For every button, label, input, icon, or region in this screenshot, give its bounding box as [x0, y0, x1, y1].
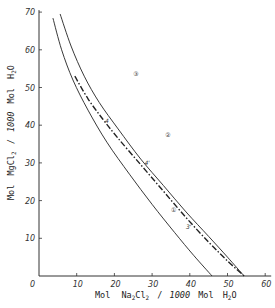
y-tick-label: 10 — [25, 234, 35, 243]
x-tick-label: 20 — [110, 280, 120, 289]
x-axis-label: Mol Na2Cl2 / 1000 Mol H2O — [95, 290, 237, 302]
annotations-layer: ①②③44'3' — [105, 70, 192, 230]
curve-annotation: 3' — [186, 223, 192, 230]
curve-annotation: 4' — [145, 159, 151, 166]
y-tick-label: 70 — [25, 8, 35, 17]
curve-annotation: 4 — [105, 117, 109, 124]
series-curve-3 — [75, 76, 244, 276]
x-tick-label: 0 — [30, 280, 35, 289]
x-tick-label: 50 — [224, 280, 234, 289]
x-tick-label: 40 — [186, 280, 196, 289]
y-tick-label: 40 — [25, 121, 35, 130]
x-tick-label: 30 — [148, 280, 158, 289]
series-curve-2 — [60, 14, 244, 276]
x-tick-label: 60 — [261, 280, 271, 289]
y-tick-label: 60 — [25, 46, 35, 55]
x-tick-label: 10 — [73, 280, 83, 289]
y-tick-label: 20 — [25, 197, 35, 206]
curve-annotation: ① — [171, 206, 176, 213]
curve-annotation: ② — [165, 131, 170, 138]
y-tick-label: 30 — [25, 159, 35, 168]
series-curve-1 — [53, 18, 212, 276]
series-layer — [53, 14, 244, 276]
y-axis-label: Mol MgCl2 / 1000 Mol H2O — [6, 65, 18, 200]
curve-annotation: ③ — [133, 70, 138, 77]
chart: 010203040506010203040506070 ①②③44'3' Mol… — [0, 0, 275, 308]
y-tick-label: 50 — [25, 84, 35, 93]
